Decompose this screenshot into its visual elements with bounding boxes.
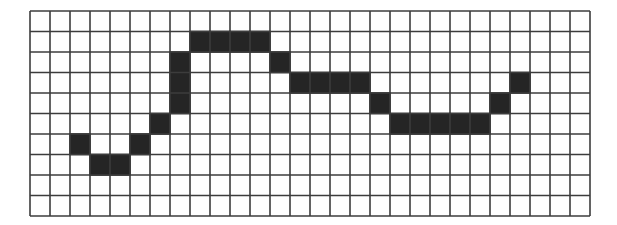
- filled-cell: [229, 31, 251, 53]
- filled-cell: [89, 154, 111, 176]
- filled-cell: [109, 154, 131, 176]
- filled-cell: [389, 113, 411, 135]
- filled-cell: [249, 31, 271, 53]
- filled-cell: [149, 113, 171, 135]
- filled-cell: [369, 92, 391, 114]
- filled-cell: [209, 31, 231, 53]
- filled-cell: [349, 72, 371, 94]
- filled-cell: [449, 113, 471, 135]
- filled-cell: [269, 51, 291, 73]
- filled-cell: [169, 51, 191, 73]
- filled-cell: [429, 113, 451, 135]
- filled-cell: [409, 113, 431, 135]
- filled-cell: [169, 92, 191, 114]
- filled-cell: [509, 72, 531, 94]
- filled-cell: [469, 113, 491, 135]
- filled-cell: [289, 72, 311, 94]
- pixel-grid-diagram: [0, 0, 617, 225]
- grid-lines: [30, 11, 590, 216]
- filled-cell: [169, 72, 191, 94]
- filled-cell: [309, 72, 331, 94]
- filled-cell: [329, 72, 351, 94]
- filled-cell: [69, 133, 91, 155]
- pixel-grid: [0, 0, 617, 225]
- filled-cell: [129, 133, 151, 155]
- filled-cell: [489, 92, 511, 114]
- filled-cell: [189, 31, 211, 53]
